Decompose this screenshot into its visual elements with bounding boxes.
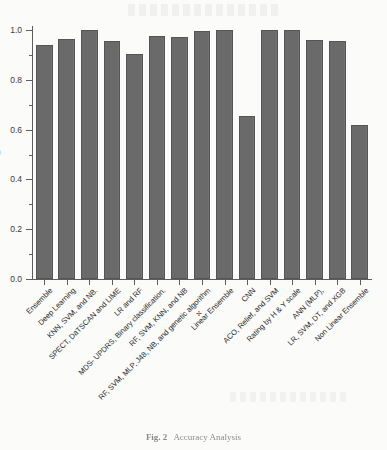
y-axis-title: B: [0, 149, 2, 155]
x-tick: [360, 280, 361, 285]
bar[interactable]: [306, 40, 323, 279]
bar-slot: [258, 30, 281, 279]
x-tick: [315, 280, 316, 285]
x-tick: [44, 280, 45, 285]
x-tick: [89, 280, 90, 285]
x-tick: [134, 280, 135, 285]
x-tick: [112, 280, 113, 285]
x-tick: [292, 280, 293, 285]
bar[interactable]: [216, 30, 233, 279]
figure-caption-label: Fig. 2: [146, 432, 168, 442]
x-tick: [225, 280, 226, 285]
x-tick: [157, 280, 158, 285]
bar[interactable]: [58, 39, 75, 279]
bar-slot: [348, 30, 371, 279]
y-tick-major: [26, 279, 33, 280]
x-tick: [179, 280, 180, 285]
bar[interactable]: [261, 30, 278, 279]
x-axis-category-labels: EnsembleDeep LearningKNN, SVM, and NB.SP…: [33, 286, 371, 406]
y-tick-major: [26, 179, 33, 180]
bar-slot: [56, 30, 79, 279]
bar-slot: [191, 30, 214, 279]
y-tick-major: [26, 229, 33, 230]
bar[interactable]: [104, 41, 121, 279]
bar[interactable]: [329, 41, 346, 279]
x-tick: [202, 280, 203, 285]
bar-series: [33, 30, 371, 279]
bar[interactable]: [351, 125, 368, 279]
bar-slot: [236, 30, 259, 279]
figure-caption: Fig. 2Accuracy Analysis: [0, 432, 387, 442]
bar-slot: [326, 30, 349, 279]
bar-slot: [78, 30, 101, 279]
bar[interactable]: [194, 31, 211, 279]
bar-slot: [281, 30, 304, 279]
y-tick-major: [26, 130, 33, 131]
bar[interactable]: [81, 30, 98, 279]
y-tick-label: 0.6: [0, 125, 22, 135]
bar-slot: [213, 30, 236, 279]
bar-slot: [101, 30, 124, 279]
bar-slot: [123, 30, 146, 279]
y-tick-label: 0.0: [0, 274, 22, 284]
plot-area: [33, 30, 371, 279]
bar-slot: [168, 30, 191, 279]
y-tick-label: 1.0: [0, 25, 22, 35]
y-tick-label: 0.4: [0, 174, 22, 184]
x-axis-label: CNN: [240, 286, 258, 304]
bar[interactable]: [239, 116, 256, 279]
accuracy-analysis-bar-chart: B 0.00.20.40.60.81.0 EnsembleDeep Learni…: [0, 0, 387, 450]
bar-slot: [146, 30, 169, 279]
bar-slot: [303, 30, 326, 279]
x-tick: [247, 280, 248, 285]
figure-caption-text: Accuracy Analysis: [173, 432, 241, 442]
x-tick: [270, 280, 271, 285]
x-tick: [337, 280, 338, 285]
y-tick-major: [26, 30, 33, 31]
bar[interactable]: [149, 36, 166, 279]
y-tick-label: 0.2: [0, 224, 22, 234]
bar[interactable]: [284, 30, 301, 279]
y-tick-major: [26, 80, 33, 81]
bar-slot: [33, 30, 56, 279]
bar[interactable]: [36, 45, 53, 279]
y-tick-label: 0.8: [0, 75, 22, 85]
x-tick: [67, 280, 68, 285]
bar[interactable]: [126, 54, 143, 279]
bar[interactable]: [171, 37, 188, 279]
